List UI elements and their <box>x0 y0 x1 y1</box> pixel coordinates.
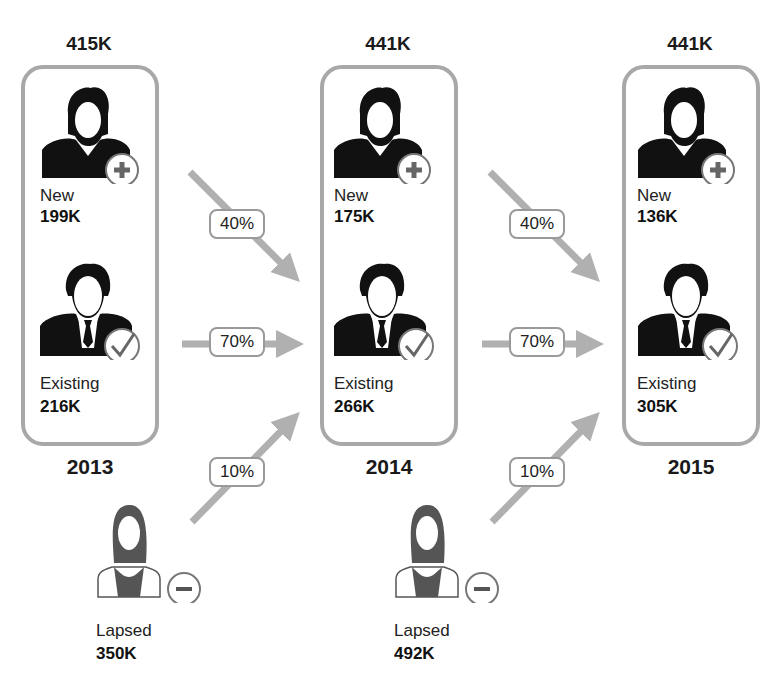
rate-existing-2013: 70% <box>209 327 265 357</box>
lapsed-label: Lapsed <box>394 621 450 641</box>
existing-label: Existing <box>637 374 697 394</box>
year-label-2015: 2015 <box>621 455 761 479</box>
total-2013: 415K <box>19 33 159 55</box>
existing-label: Existing <box>40 374 100 394</box>
new-value: 175K <box>334 207 375 227</box>
new-customer-icon <box>38 84 143 184</box>
new-customer-icon <box>330 84 435 184</box>
lapsed-value: 492K <box>394 644 435 664</box>
rate-new-2013: 40% <box>209 209 265 239</box>
rate-existing-2014: 70% <box>509 327 565 357</box>
total-2014: 441K <box>318 33 458 55</box>
new-customer-icon <box>634 84 739 184</box>
year-label-2013: 2013 <box>20 455 160 479</box>
new-value: 199K <box>40 207 81 227</box>
existing-customer-icon <box>636 260 741 360</box>
existing-value: 266K <box>334 397 375 417</box>
existing-value: 216K <box>40 397 81 417</box>
rate-lapsed-2014: 10% <box>509 457 565 487</box>
existing-customer-icon <box>332 260 437 360</box>
existing-value: 305K <box>637 397 678 417</box>
new-label: New <box>334 186 368 206</box>
lapsed-customer-icon <box>392 503 502 603</box>
rate-new-2014: 40% <box>509 209 565 239</box>
rate-lapsed-2013: 10% <box>209 457 265 487</box>
new-label: New <box>40 186 74 206</box>
new-label: New <box>637 186 671 206</box>
new-value: 136K <box>637 207 678 227</box>
lapsed-customer-icon <box>94 503 204 603</box>
lapsed-value: 350K <box>96 644 137 664</box>
year-label-2014: 2014 <box>319 455 459 479</box>
existing-customer-icon <box>38 260 143 360</box>
existing-label: Existing <box>334 374 394 394</box>
total-2015: 441K <box>620 33 760 55</box>
lapsed-label: Lapsed <box>96 621 152 641</box>
